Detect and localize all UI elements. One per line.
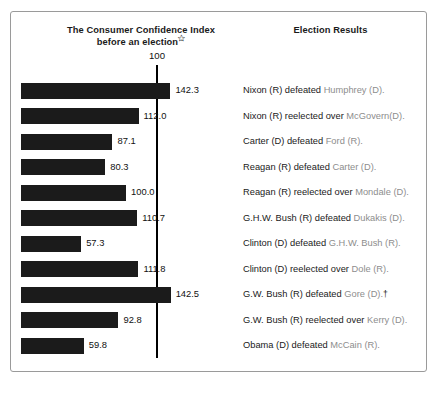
- election-verb: defeated: [303, 289, 344, 299]
- chart-row: 1968142.3Nixon (R) defeated Humphrey (D)…: [11, 78, 426, 103]
- election-loser: Kerry (D).: [367, 315, 407, 325]
- election-result-text: Obama (D) defeated McCain (R).: [243, 339, 431, 351]
- bar: [21, 134, 112, 150]
- bar-value-label: 57.3: [86, 237, 104, 248]
- bar: [21, 185, 126, 201]
- election-verb: reelected over: [303, 315, 367, 325]
- election-winner: Carter (D): [243, 136, 284, 146]
- footnote-dagger-icon: †: [383, 289, 388, 299]
- election-result-text: Clinton (D) reelected over Dole (R).: [243, 263, 431, 275]
- chart-row: 200492.8G.W. Bush (R) reelected over Ker…: [11, 308, 426, 333]
- bar: [21, 159, 105, 175]
- election-loser: Dole (R).: [352, 264, 389, 274]
- bar: [21, 287, 171, 303]
- bar-value-label: 112.0: [144, 110, 167, 121]
- chart-header-line-2: before an election: [97, 37, 178, 47]
- figure-panel: The Consumer Confidence Index before an …: [10, 11, 427, 372]
- results-column-header: Election Results: [243, 25, 418, 37]
- election-verb: defeated: [284, 136, 325, 146]
- election-loser: Dukakis (D).: [354, 213, 405, 223]
- bar: [21, 83, 170, 99]
- election-winner: Reagan (R): [243, 162, 291, 172]
- election-verb: defeated: [289, 340, 330, 350]
- chart-row: 198080.3Reagan (R) defeated Carter (D).: [11, 155, 426, 180]
- election-result-text: Clinton (D) defeated G.H.W. Bush (R).: [243, 237, 431, 249]
- election-verb: defeated: [282, 85, 323, 95]
- bar-value-label: 92.8: [123, 314, 141, 325]
- bar: [21, 261, 138, 277]
- election-loser: Ford (R).: [326, 136, 363, 146]
- election-result-text: G.H.W. Bush (R) defeated Dukakis (D).: [243, 212, 431, 224]
- bar-value-label: 80.3: [110, 161, 128, 172]
- election-result-text: G.W. Bush (R) defeated Gore (D).†: [243, 288, 431, 300]
- election-result-text: Reagan (R) reelected over Mondale (D).: [243, 186, 431, 198]
- election-loser: G.H.W. Bush (R).: [329, 238, 401, 248]
- election-winner: G.W. Bush (R): [243, 315, 303, 325]
- chart-row: 1984100.0Reagan (R) reelected over Monda…: [11, 180, 426, 205]
- election-winner: Clinton (D): [243, 264, 287, 274]
- election-winner: Obama (D): [243, 340, 289, 350]
- chart-row: 2000142.5G.W. Bush (R) defeated Gore (D)…: [11, 282, 426, 307]
- election-winner: G.H.W. Bush (R): [243, 213, 312, 223]
- election-loser: McGovern(D).: [346, 111, 404, 121]
- election-result-text: Nixon (R) reelected over McGovern(D).: [243, 110, 431, 122]
- election-loser: McCain (R).: [330, 340, 380, 350]
- bar-value-label: 87.1: [117, 135, 135, 146]
- election-loser: Carter (D).: [332, 162, 376, 172]
- election-winner: G.W. Bush (R): [243, 289, 303, 299]
- bar: [21, 210, 137, 226]
- election-verb: defeated: [312, 213, 353, 223]
- chart-row: 197687.1Carter (D) defeated Ford (R).: [11, 129, 426, 154]
- chart-row: 199257.3Clinton (D) defeated G.H.W. Bush…: [11, 231, 426, 256]
- election-winner: Nixon (R): [243, 85, 282, 95]
- bar: [21, 108, 139, 124]
- election-verb: reelected over: [287, 264, 351, 274]
- bar-value-label: 142.5: [176, 288, 199, 299]
- election-verb: reelected over: [291, 187, 355, 197]
- chart-row: 200859.8Obama (D) defeated McCain (R).: [11, 333, 426, 358]
- reference-line-label: 100: [131, 50, 183, 61]
- election-winner: Reagan (R): [243, 187, 291, 197]
- bar-value-label: 111.8: [143, 263, 165, 274]
- election-loser: Humphrey (D).: [324, 85, 385, 95]
- bar: [21, 312, 118, 328]
- election-result-text: Carter (D) defeated Ford (R).: [243, 135, 431, 147]
- election-verb: defeated: [287, 238, 328, 248]
- election-loser: Gore (D).: [344, 289, 383, 299]
- election-result-text: Nixon (R) defeated Humphrey (D).: [243, 84, 431, 96]
- election-winner: Clinton (D): [243, 238, 287, 248]
- chart-header-line-1: The Consumer Confidence Index: [67, 25, 215, 35]
- bar: [21, 338, 84, 354]
- bar-value-label: 110.7: [142, 212, 165, 223]
- bar-value-label: 59.8: [89, 339, 107, 350]
- chart-column-header: The Consumer Confidence Index before an …: [41, 25, 241, 48]
- chart-row: 1996111.8Clinton (D) reelected over Dole…: [11, 257, 426, 282]
- bar: [21, 236, 81, 252]
- election-verb: defeated: [291, 162, 332, 172]
- chart-row: 1988110.7G.H.W. Bush (R) defeated Dukaki…: [11, 206, 426, 231]
- election-winner: Nixon (R): [243, 111, 282, 121]
- chart-row: 1972112.0Nixon (R) reelected over McGove…: [11, 104, 426, 129]
- election-verb: reelected over: [282, 111, 346, 121]
- footnote-asterisk-icon: ✩: [178, 33, 185, 42]
- election-loser: Mondale (D).: [355, 187, 409, 197]
- election-result-text: G.W. Bush (R) reelected over Kerry (D).: [243, 314, 431, 326]
- bar-value-label: 142.3: [175, 84, 198, 95]
- bar-value-label: 100.0: [131, 186, 154, 197]
- election-result-text: Reagan (R) defeated Carter (D).: [243, 161, 431, 173]
